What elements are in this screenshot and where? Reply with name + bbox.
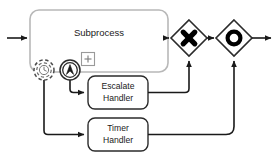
flow-timer-event-to-timer-handler — [44, 80, 84, 135]
timer-boundary-event[interactable] — [34, 60, 54, 80]
escalate-handler-label-line1: Escalate — [102, 81, 135, 91]
bpmn-svg-surface: Subprocess Escalate Handler Timer Handle… — [0, 0, 279, 161]
clock-icon — [39, 65, 48, 74]
subprocess-label: Subprocess — [74, 27, 124, 38]
bpmn-diagram-canvas: Subprocess Escalate Handler Timer Handle… — [0, 0, 279, 161]
escalate-handler-label-line2: Handler — [103, 93, 133, 103]
exclusive-gateway[interactable] — [171, 20, 207, 56]
timer-handler-label-line1: Timer — [107, 123, 129, 133]
expand-collapse-marker[interactable] — [82, 53, 95, 66]
escalation-boundary-event[interactable] — [60, 60, 80, 80]
flow-escalation-event-to-escalate-handler — [70, 80, 84, 93]
timer-handler-label-line2: Handler — [103, 135, 133, 145]
event-gateway[interactable] — [216, 20, 252, 56]
